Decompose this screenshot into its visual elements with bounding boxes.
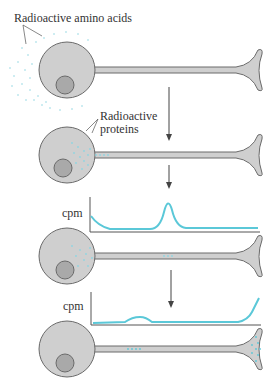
arrow-down-icon	[166, 165, 172, 189]
cpm-chart-1	[90, 197, 260, 232]
neuron-stage-2	[39, 127, 262, 183]
nucleus	[56, 261, 74, 279]
nucleus	[54, 159, 72, 177]
cpm-axis-label-2: cpm	[63, 300, 84, 313]
neuron-stage-1	[39, 42, 262, 98]
nucleus	[56, 354, 74, 372]
neuron-transport-diagram	[0, 0, 279, 389]
arrow-down-icon	[166, 87, 172, 141]
cpm-chart-2	[91, 292, 261, 325]
amino-acids-leader	[23, 25, 42, 44]
neuron-stage-4	[39, 321, 262, 377]
proteins-label-line2: proteins	[100, 123, 139, 136]
nucleus	[56, 76, 74, 94]
cpm-axis-label-1: cpm	[62, 207, 83, 220]
proteins-leader	[86, 119, 98, 133]
arrow-down-icon	[168, 270, 174, 308]
neuron-stage-3	[39, 228, 262, 284]
amino-acids-label: Radioactive amino acids	[14, 12, 132, 25]
